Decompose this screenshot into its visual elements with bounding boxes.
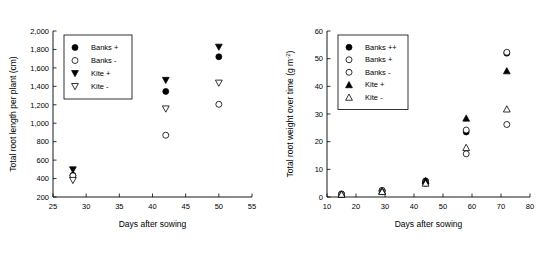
x-tick-label: 10 [323, 202, 331, 211]
legend-marker [346, 69, 352, 75]
data-point [463, 127, 469, 133]
data-point [503, 68, 510, 74]
y-tick-label: 200 [36, 193, 49, 202]
data-point [504, 49, 510, 55]
x-tick-label: 30 [381, 202, 389, 211]
data-point [162, 106, 169, 112]
data-point [216, 101, 222, 107]
legend-marker [72, 58, 78, 64]
y-tick-label: 600 [36, 156, 49, 165]
y-tick-label: 400 [36, 174, 49, 183]
y-tick-label: 30 [315, 110, 323, 119]
data-point [70, 177, 77, 183]
y-tick-label: 1,200 [30, 101, 49, 110]
x-tick-group: 25303540455055 [49, 194, 256, 212]
y-axis-title: Total root length per plant (cm) [8, 56, 18, 171]
y-tick-group: 0102030405060 [315, 27, 331, 202]
legend-label: Banks ++ [365, 43, 397, 52]
legend-label: Banks + [365, 55, 393, 64]
x-tick-label: 80 [526, 202, 534, 211]
two-panel-scatter-figure: 253035404550552004006008001,0001,2001,40… [0, 0, 560, 253]
legend-label: Kite - [91, 82, 109, 91]
y-tick-label: 2,000 [30, 27, 49, 36]
legend-label: Kite + [365, 80, 385, 89]
x-tick-label: 40 [410, 202, 418, 211]
legend-label: Banks - [365, 68, 391, 77]
data-point [463, 115, 470, 121]
x-axis-title: Days after sowing [119, 219, 187, 229]
y-tick-label: 50 [315, 54, 323, 63]
x-tick-group: 1020304050607080 [323, 194, 534, 212]
x-tick-label: 20 [352, 202, 360, 211]
y-tick-label: 1,800 [30, 45, 49, 54]
x-tick-label: 35 [115, 202, 123, 211]
left-panel-root-length: 253035404550552004006008001,0001,2001,40… [0, 0, 280, 253]
data-point [503, 106, 510, 112]
data-point [504, 122, 510, 128]
legend-marker [346, 57, 352, 63]
series-group [338, 106, 510, 197]
x-tick-label: 70 [497, 202, 505, 211]
legend: Banks ++Banks +Banks -Kite +Kite - [338, 35, 408, 110]
y-tick-label: 800 [36, 137, 49, 146]
data-point [463, 151, 469, 157]
x-tick-label: 60 [468, 202, 476, 211]
y-tick-label: 1,000 [30, 119, 49, 128]
y-tick-label: 40 [315, 82, 323, 91]
left-plot-canvas: 253035404550552004006008001,0001,2001,40… [0, 0, 280, 253]
data-point [163, 88, 169, 94]
x-tick-label: 40 [148, 202, 156, 211]
y-tick-label: 1,600 [30, 64, 49, 73]
y-tick-label: 0 [319, 193, 323, 202]
data-point [216, 54, 222, 60]
y-axis-title: Total root weight over time (g m-2) [285, 50, 295, 177]
data-point [70, 167, 77, 173]
x-tick-label: 45 [181, 202, 189, 211]
svg-text:Total root weight over time (g: Total root weight over time (g m-2) [285, 50, 295, 177]
data-point [463, 144, 470, 150]
x-tick-label: 50 [215, 202, 223, 211]
x-tick-label: 30 [82, 202, 90, 211]
legend-label: Banks + [91, 43, 119, 52]
y-tick-label: 60 [315, 27, 323, 36]
legend-label: Kite - [365, 93, 383, 102]
data-point [215, 80, 222, 86]
data-point [163, 132, 169, 138]
right-plot-canvas: 10203040506070800102030405060Days after … [280, 0, 560, 253]
x-tick-label: 25 [49, 202, 57, 211]
legend-marker [72, 45, 78, 51]
legend-marker [346, 44, 352, 50]
y-tick-label: 1,400 [30, 82, 49, 91]
x-tick-label: 50 [439, 202, 447, 211]
legend-label: Banks - [91, 56, 117, 65]
y-tick-label: 20 [315, 137, 323, 146]
legend: Banks +Banks -Kite +Kite - [64, 35, 132, 99]
series-group [70, 101, 222, 178]
x-axis-title: Days after sowing [395, 219, 463, 229]
y-tick-label: 10 [315, 165, 323, 174]
data-point [162, 77, 169, 83]
x-tick-label: 55 [248, 202, 256, 211]
svg-text:Total root length per plant (c: Total root length per plant (cm) [8, 56, 18, 171]
data-point [215, 44, 222, 50]
right-panel-root-weight: 10203040506070800102030405060Days after … [280, 0, 560, 253]
legend-label: Kite + [91, 69, 111, 78]
